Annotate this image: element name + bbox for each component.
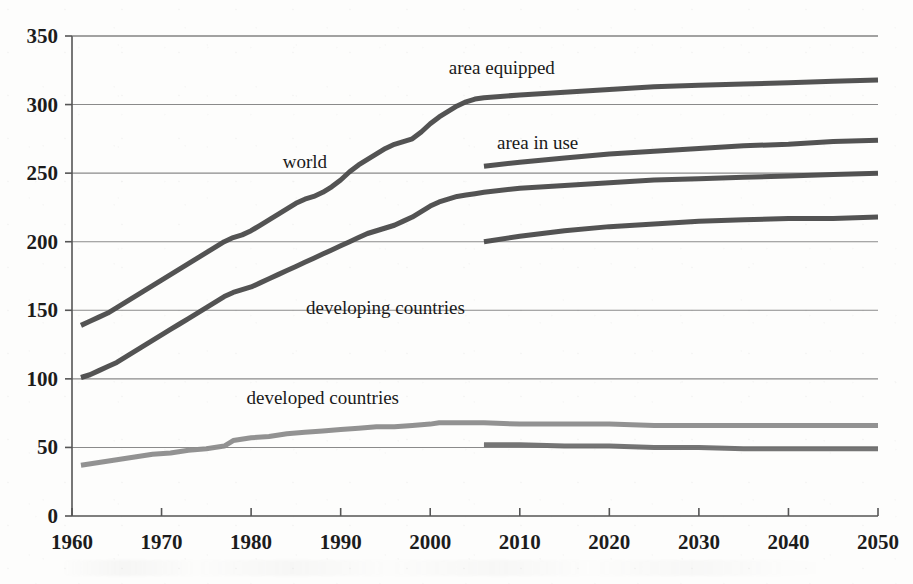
x-tick-label-1960: 1960 [51,530,93,555]
x-tick-label-2050: 2050 [857,530,899,555]
series-line-developing-countries-area-in-use [484,217,878,242]
chart-plot-area [0,0,913,584]
y-tick-marks [65,36,72,516]
annotation-area-equipped: area equipped [449,57,555,79]
x-tick-label-2000: 2000 [409,530,451,555]
x-tick-label-2010: 2010 [499,530,541,555]
series-line-developed-countries-area-equipped [81,423,878,466]
annotation-developed-countries: developed countries [247,387,399,409]
annotation-developing-countries: developing countries [306,297,465,319]
x-tick-marks [72,508,878,516]
y-tick-label-200: 200 [0,229,58,254]
y-tick-label-350: 350 [0,24,58,49]
x-tick-label-1970: 1970 [141,530,183,555]
chart-root: 050100150200250300350 196019701980199020… [0,0,913,584]
series-line-developed-countries-area-in-use [484,445,878,449]
y-tick-label-100: 100 [0,366,58,391]
x-tick-label-1980: 1980 [230,530,272,555]
y-tick-label-0: 0 [0,504,58,529]
y-tick-label-250: 250 [0,161,58,186]
annotation-area-in-use: area in use [497,132,578,154]
y-tick-label-150: 150 [0,298,58,323]
x-tick-label-2030: 2030 [678,530,720,555]
data-series [81,80,878,465]
series-line-world-area-equipped [81,80,878,325]
x-tick-label-2020: 2020 [588,530,630,555]
y-tick-label-300: 300 [0,92,58,117]
series-line-developing-countries-area-equipped [81,173,878,377]
annotation-world: world [283,151,327,173]
x-tick-label-1990: 1990 [320,530,362,555]
y-tick-label-50: 50 [0,435,58,460]
axes [72,36,878,516]
x-tick-label-2040: 2040 [767,530,809,555]
